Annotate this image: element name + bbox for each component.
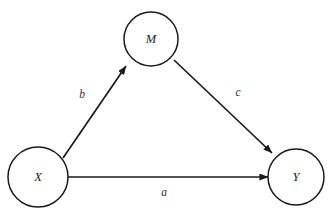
edge-label-c: c xyxy=(235,86,240,98)
edge-x-to-m xyxy=(63,66,126,158)
edge-m-to-y xyxy=(174,60,272,153)
edge-label-a: a xyxy=(161,186,167,198)
diagram-canvas: M X Y b c a xyxy=(0,0,331,216)
mediation-diagram: M X Y b c a xyxy=(0,0,331,216)
edge-label-b: b xyxy=(79,88,85,100)
node-x-label: X xyxy=(33,170,43,184)
node-m-label: M xyxy=(145,32,157,46)
